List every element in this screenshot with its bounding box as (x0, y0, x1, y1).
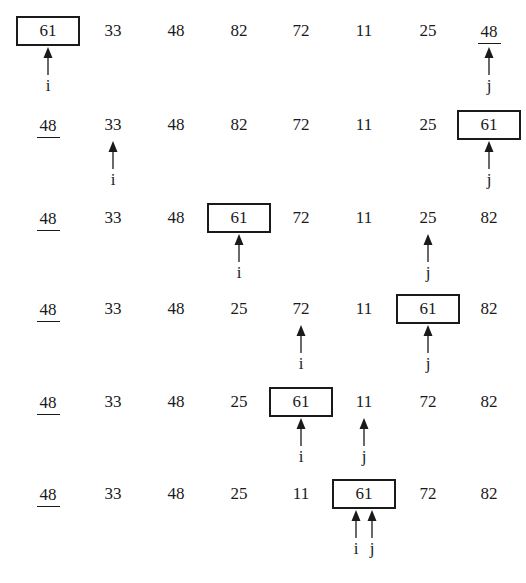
cell-value: 48 (168, 485, 185, 504)
underlined-cell: 48 (16, 479, 80, 509)
pointer-j: j (479, 47, 499, 94)
cell-value: 33 (105, 300, 122, 319)
cell-value: 11 (356, 300, 372, 319)
up-arrow-icon (484, 141, 494, 169)
cell-value: 61 (293, 393, 310, 412)
cell-value: 48 (168, 22, 185, 41)
array-cell: 82 (457, 387, 521, 417)
cell-value: 33 (105, 209, 122, 228)
pointer-i: i (103, 141, 123, 188)
array-cell: 72 (269, 294, 333, 324)
pointer-j: j (418, 234, 438, 281)
cell-value: 61 (481, 116, 498, 135)
pointer-label: i (111, 171, 116, 188)
underlined-cell: 48 (16, 387, 80, 417)
pointer-i: i (38, 47, 58, 94)
pointer-j: j (362, 510, 382, 557)
pointer-label: i (299, 448, 304, 465)
pivot-box-cell: 61 (457, 110, 521, 140)
cell-value: 33 (105, 485, 122, 504)
array-cell: 82 (457, 479, 521, 509)
cell-value: 25 (231, 485, 248, 504)
pivot-box-cell: 61 (16, 16, 80, 46)
cell-value: 82 (231, 116, 248, 135)
cell-value: 48 (168, 209, 185, 228)
up-arrow-icon (296, 325, 306, 353)
cell-value: 61 (231, 209, 248, 228)
cell-value: 33 (105, 22, 122, 41)
cell-value: 25 (420, 22, 437, 41)
cell-value: 48 (168, 393, 185, 412)
cell-value: 25 (231, 393, 248, 412)
cell-value: 61 (420, 300, 437, 319)
cell-value: 48 (478, 23, 501, 44)
pointer-label: j (370, 540, 375, 557)
array-cell: 33 (81, 16, 145, 46)
up-arrow-icon (296, 418, 306, 446)
pointer-i: i (291, 325, 311, 372)
pointer-label: i (46, 77, 51, 94)
array-cell: 33 (81, 110, 145, 140)
array-cell: 33 (81, 294, 145, 324)
cell-value: 72 (293, 22, 310, 41)
array-cell: 82 (207, 110, 271, 140)
up-arrow-icon (484, 47, 494, 75)
array-cell: 11 (332, 387, 396, 417)
pointer-j: j (354, 418, 374, 465)
cell-value: 48 (37, 486, 60, 507)
array-cell: 48 (144, 387, 208, 417)
array-cell: 48 (144, 294, 208, 324)
array-cell: 48 (144, 110, 208, 140)
cell-value: 11 (356, 116, 372, 135)
array-cell: 82 (457, 294, 521, 324)
cell-value: 11 (356, 209, 372, 228)
underlined-cell: 48 (16, 203, 80, 233)
partition-step-row: 4833482511617282ij (0, 479, 526, 559)
array-cell: 72 (269, 16, 333, 46)
pointer-j: j (418, 325, 438, 372)
array-cell: 25 (396, 203, 460, 233)
partition-step-row: 4833488272112561ij (0, 110, 526, 190)
pointer-label: j (487, 171, 492, 188)
cell-value: 48 (37, 210, 60, 231)
array-cell: 72 (396, 479, 460, 509)
cell-value: 11 (356, 393, 372, 412)
cell-value: 25 (231, 300, 248, 319)
array-cell: 25 (207, 479, 271, 509)
cell-value: 72 (420, 485, 437, 504)
cell-value: 11 (293, 485, 309, 504)
cell-value: 82 (481, 485, 498, 504)
cell-value: 82 (481, 209, 498, 228)
pivot-box-cell: 61 (396, 294, 460, 324)
underlined-cell: 48 (16, 110, 80, 140)
up-arrow-icon (423, 325, 433, 353)
pointer-label: j (487, 77, 492, 94)
cell-value: 48 (37, 394, 60, 415)
array-cell: 82 (457, 203, 521, 233)
array-cell: 11 (332, 294, 396, 324)
pointer-label: j (426, 355, 431, 372)
array-cell: 72 (269, 110, 333, 140)
pointer-i: i (229, 234, 249, 281)
underlined-cell: 48 (16, 294, 80, 324)
array-cell: 72 (396, 387, 460, 417)
pointer-label: i (299, 355, 304, 372)
cell-value: 48 (37, 301, 60, 322)
up-arrow-icon (234, 234, 244, 262)
cell-value: 48 (168, 300, 185, 319)
cell-value: 82 (481, 300, 498, 319)
cell-value: 61 (40, 22, 57, 41)
cell-value: 11 (356, 22, 372, 41)
array-cell: 48 (144, 16, 208, 46)
array-cell: 82 (207, 16, 271, 46)
pivot-box-cell: 61 (332, 479, 396, 509)
cell-value: 61 (356, 485, 373, 504)
array-cell: 25 (396, 110, 460, 140)
array-cell: 11 (332, 203, 396, 233)
pivot-box-cell: 61 (207, 203, 271, 233)
pointer-label: j (426, 264, 431, 281)
cell-value: 82 (231, 22, 248, 41)
pivot-box-cell: 61 (269, 387, 333, 417)
cell-value: 25 (420, 116, 437, 135)
array-cell: 25 (207, 387, 271, 417)
